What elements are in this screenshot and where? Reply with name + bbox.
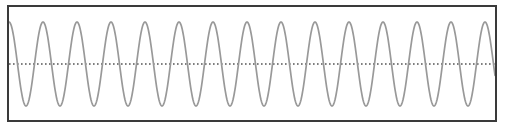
waveform-screenshot — [0, 0, 505, 133]
waveform-plot-surface — [9, 7, 495, 120]
plot-frame — [7, 5, 497, 122]
